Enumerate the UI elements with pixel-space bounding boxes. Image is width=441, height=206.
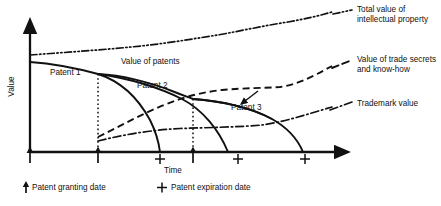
legend-stub-trade-secrets-icon <box>332 60 352 68</box>
figure-patent-value-chart: Value Time Value of patents Patent 1 Pat… <box>0 0 441 206</box>
legend-line-stubs <box>330 10 352 110</box>
key-expiration-label: Patent expiration date <box>171 183 251 192</box>
legend-label-total-value-line2: intellectual property <box>357 15 428 25</box>
legend-label-trade-secrets-line1: Value of trade secrets <box>357 55 436 65</box>
legend-label-total-value-line1: Total value of <box>357 5 405 15</box>
legend-stub-trademark-icon <box>330 102 352 110</box>
marker-expiration-dates <box>155 154 310 164</box>
series-trademark-value <box>98 107 332 141</box>
annotation-patent-3: Patent 3 <box>231 103 262 113</box>
series-total-value-ip <box>30 12 332 55</box>
y-axis-title: Value <box>7 67 16 107</box>
annotation-patent-1: Patent 1 <box>50 68 81 78</box>
annotation-value-of-patents: Value of patents <box>121 57 180 67</box>
key-expiration-plus-icon <box>157 183 167 193</box>
x-axis-title: Time <box>164 166 182 176</box>
callout-arrow-patent-3 <box>245 91 258 101</box>
legend-label-trade-secrets-line2: and know-how <box>357 65 410 75</box>
annotation-patent-2: Patent 2 <box>137 81 168 91</box>
legend-label-trademark: Trademark value <box>357 99 418 109</box>
key-granting-label: Patent granting date <box>32 183 106 192</box>
legend-stub-total-value-icon <box>333 10 352 14</box>
key-granting-arrow-icon <box>23 181 29 193</box>
marker-granting-dates <box>27 147 197 164</box>
